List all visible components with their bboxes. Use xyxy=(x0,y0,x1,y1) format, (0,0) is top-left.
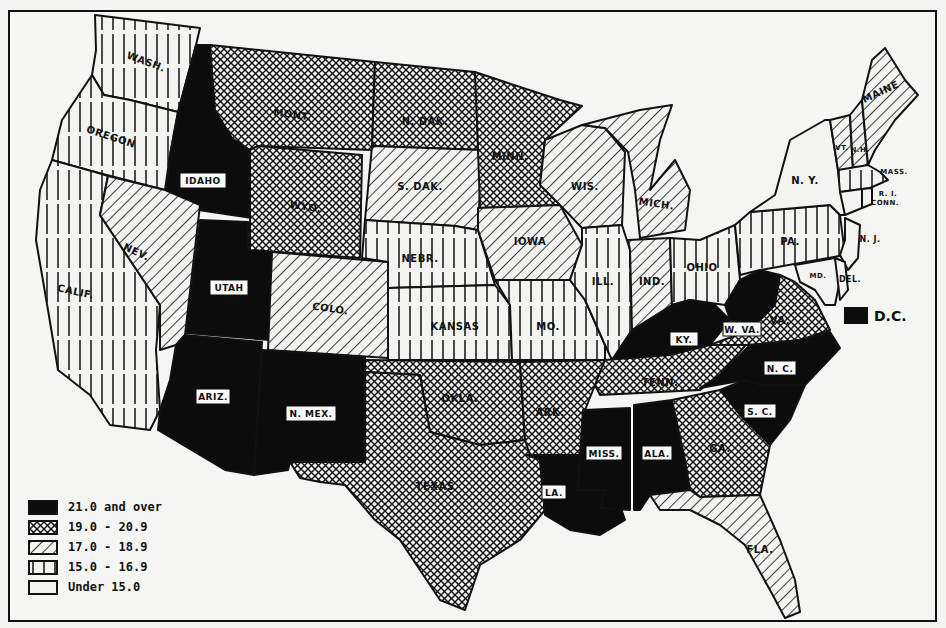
svg-text:S. C.: S. C. xyxy=(747,407,773,417)
dc-label: D.C. xyxy=(874,308,907,324)
svg-text:N. J.: N. J. xyxy=(859,235,880,244)
svg-text:ILL.: ILL. xyxy=(592,276,614,287)
svg-text:W. VA.: W. VA. xyxy=(724,325,760,335)
state-mont xyxy=(210,45,375,150)
svg-text:GA.: GA. xyxy=(709,443,730,454)
svg-text:VT.: VT. xyxy=(835,144,848,152)
svg-text:KY.: KY. xyxy=(676,335,693,345)
svg-text:DEL.: DEL. xyxy=(839,275,861,284)
legend-item-15-16: 15.0 - 16.9 xyxy=(28,557,162,577)
svg-text:CONN.: CONN. xyxy=(871,199,899,207)
svg-text:NEBR.: NEBR. xyxy=(401,253,438,264)
svg-text:N. MEX.: N. MEX. xyxy=(289,409,332,419)
svg-text:N. C.: N. C. xyxy=(767,364,794,374)
svg-text:MD.: MD. xyxy=(810,272,827,280)
svg-text:IND.: IND. xyxy=(639,276,665,287)
svg-text:PA.: PA. xyxy=(780,236,800,247)
svg-text:OHIO: OHIO xyxy=(686,262,717,273)
svg-text:FLA.: FLA. xyxy=(747,544,774,555)
legend-item-under-15: Under 15.0 xyxy=(28,577,162,597)
svg-text:LA.: LA. xyxy=(545,488,563,498)
svg-text:KANSAS: KANSAS xyxy=(430,321,479,332)
svg-text:MINN.: MINN. xyxy=(492,151,529,162)
legend-item-17-18: 17.0 - 18.9 xyxy=(28,537,162,557)
svg-text:S. DAK.: S. DAK. xyxy=(397,181,443,192)
crosshatch-swatch xyxy=(28,520,58,535)
state-conn xyxy=(840,189,862,215)
state-ny xyxy=(750,120,845,215)
svg-text:R. I.: R. I. xyxy=(879,190,897,198)
solid-black-swatch xyxy=(28,500,58,515)
state-maine xyxy=(862,48,918,165)
svg-text:UTAH: UTAH xyxy=(214,283,243,293)
svg-text:TENN.: TENN. xyxy=(642,377,679,388)
svg-text:WIS.: WIS. xyxy=(571,181,599,192)
svg-text:MO.: MO. xyxy=(536,321,560,332)
legend-item-19-20: 19.0 - 20.9 xyxy=(28,517,162,537)
svg-text:OKLA.: OKLA. xyxy=(442,393,479,404)
svg-text:IOWA: IOWA xyxy=(514,236,547,247)
svg-text:N. DAK.: N. DAK. xyxy=(402,116,449,127)
svg-text:ARK.: ARK. xyxy=(536,407,565,418)
svg-text:VA.: VA. xyxy=(770,315,790,326)
svg-text:N.H.: N.H. xyxy=(850,146,869,154)
diagonal-swatch xyxy=(28,540,58,555)
legend-item-21-and-over: 21.0 and over xyxy=(28,497,162,517)
state-fla xyxy=(650,490,800,618)
svg-text:ARIZ.: ARIZ. xyxy=(198,392,228,402)
legend: 21.0 and over 19.0 - 20.9 17.0 - 18.9 15… xyxy=(28,497,162,597)
svg-text:ALA.: ALA. xyxy=(644,449,669,459)
vertical-lines-swatch xyxy=(28,560,58,575)
svg-text:MISS.: MISS. xyxy=(589,449,620,459)
svg-text:IDAHO: IDAHO xyxy=(185,176,220,186)
svg-text:N. Y.: N. Y. xyxy=(791,175,819,186)
dc-swatch xyxy=(844,307,868,324)
state-ndak xyxy=(372,62,482,150)
blank-swatch xyxy=(28,580,58,595)
svg-text:MASS.: MASS. xyxy=(880,168,907,176)
svg-text:TEXAS: TEXAS xyxy=(416,481,455,492)
dc-marker: D.C. xyxy=(844,307,907,324)
state-ariz xyxy=(158,335,262,475)
